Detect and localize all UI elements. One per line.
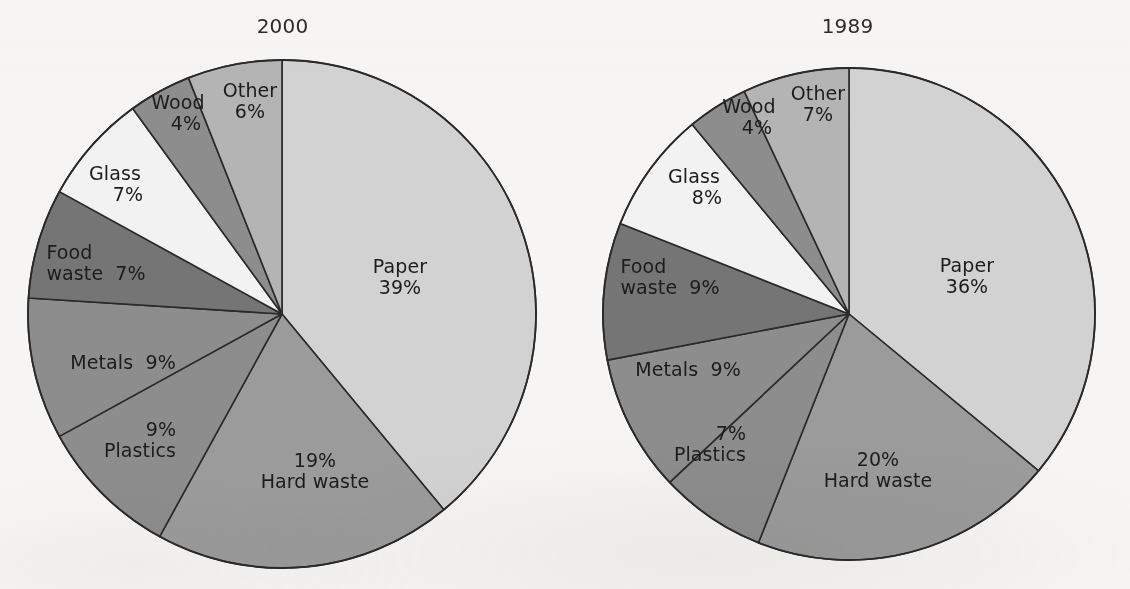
pie-label-wood: Wood4% bbox=[722, 96, 775, 139]
pie-label-glass: Glass7% bbox=[87, 163, 143, 206]
label-value: 20% bbox=[824, 449, 933, 470]
waste-composition-pie-figure: 2000 Paper39%19%Hard waste9%PlasticsMeta… bbox=[0, 0, 1130, 589]
pie-label-food-waste: Foodwaste7% bbox=[46, 242, 145, 285]
label-name: Metals bbox=[635, 358, 698, 380]
pie-label-paper: Paper39% bbox=[373, 256, 427, 299]
label-value: 7% bbox=[716, 423, 746, 444]
label-value: 8% bbox=[692, 187, 722, 208]
label-value: 7% bbox=[791, 104, 845, 125]
pie-label-glass: Glass8% bbox=[666, 166, 722, 209]
label-value: 7% bbox=[113, 184, 143, 205]
pie-chart-2000: 2000 Paper39%19%Hard waste9%PlasticsMeta… bbox=[0, 0, 565, 589]
label-name: Wood bbox=[722, 96, 775, 117]
label-name: Foodwaste bbox=[620, 256, 677, 299]
label-value: 9% bbox=[146, 419, 176, 440]
label-name: Wood bbox=[151, 92, 204, 113]
label-name: Glass bbox=[666, 166, 722, 187]
label-value: 7% bbox=[115, 263, 145, 284]
label-name: Other bbox=[791, 83, 845, 104]
pie-label-food-waste: Foodwaste9% bbox=[620, 256, 719, 299]
label-name: Hard waste bbox=[824, 470, 933, 491]
label-name: Paper bbox=[373, 256, 427, 277]
label-name: Glass bbox=[87, 163, 143, 184]
pie-label-other: Other7% bbox=[791, 83, 845, 126]
pie-label-other: Other6% bbox=[223, 80, 277, 123]
label-value: 9% bbox=[689, 277, 719, 298]
label-value: 39% bbox=[373, 277, 427, 298]
label-name: Metals bbox=[70, 351, 133, 373]
label-name: Foodwaste bbox=[46, 242, 103, 285]
label-name: Paper bbox=[940, 255, 994, 276]
pie-label-plastics: 9%Plastics bbox=[104, 419, 176, 462]
pie-label-metals: Metals 9% bbox=[70, 352, 176, 373]
label-value: 6% bbox=[223, 101, 277, 122]
label-value: 9% bbox=[698, 358, 741, 380]
pie-chart-2000-canvas bbox=[0, 0, 565, 589]
pie-label-hard-waste: 19%Hard waste bbox=[261, 450, 370, 493]
pie-label-metals: Metals 9% bbox=[635, 359, 741, 380]
label-name: Other bbox=[223, 80, 277, 101]
label-value: 4% bbox=[167, 113, 204, 134]
label-value: 19% bbox=[261, 450, 370, 471]
label-name: Plastics bbox=[104, 440, 176, 461]
pie-chart-1989: 1989 Paper36%20%Hard waste7%PlasticsMeta… bbox=[565, 0, 1130, 589]
label-name: Hard waste bbox=[261, 471, 370, 492]
label-value: 4% bbox=[738, 117, 775, 138]
label-name: Plastics bbox=[674, 444, 746, 465]
pie-label-wood: Wood4% bbox=[151, 92, 204, 135]
pie-label-paper: Paper36% bbox=[940, 255, 994, 298]
label-value: 9% bbox=[133, 351, 176, 373]
pie-label-plastics: 7%Plastics bbox=[674, 423, 746, 466]
pie-label-hard-waste: 20%Hard waste bbox=[824, 449, 933, 492]
label-value: 36% bbox=[940, 276, 994, 297]
